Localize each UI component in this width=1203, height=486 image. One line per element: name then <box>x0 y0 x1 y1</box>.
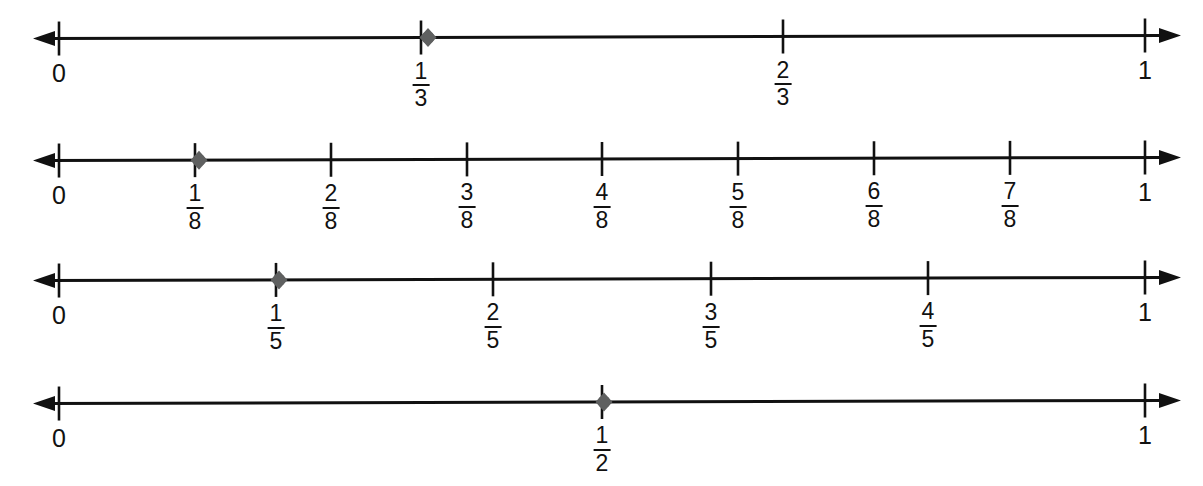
plotted-point-dot[interactable] <box>422 31 434 43</box>
plotted-point-dot[interactable] <box>598 396 610 408</box>
axis-graphics-fifths <box>0 247 1203 362</box>
arrow-right-icon <box>1159 28 1181 43</box>
axis-line <box>47 277 1169 280</box>
plotted-point-dot[interactable] <box>193 154 205 166</box>
arrow-left-icon <box>33 31 55 46</box>
arrow-right-icon <box>1159 150 1181 165</box>
axis-graphics-eighths <box>0 127 1203 242</box>
arrow-left-icon <box>33 273 55 288</box>
axis-graphics-thirds <box>0 5 1203 120</box>
axis-line <box>47 157 1169 160</box>
number-line-fifths: 0152535451 <box>0 247 1203 362</box>
arrow-right-icon <box>1159 270 1181 285</box>
axis-graphics-halves <box>0 370 1203 485</box>
arrow-right-icon <box>1159 393 1181 408</box>
number-line-eighths: 0182838485868781 <box>0 127 1203 242</box>
arrow-left-icon <box>33 153 55 168</box>
figure-canvas: 013231018283848586878101525354510121 <box>0 0 1203 486</box>
plotted-point-dot[interactable] <box>273 274 285 286</box>
number-line-halves: 0121 <box>0 370 1203 485</box>
axis-line <box>47 35 1169 38</box>
number-line-thirds: 013231 <box>0 5 1203 120</box>
arrow-left-icon <box>33 396 55 411</box>
